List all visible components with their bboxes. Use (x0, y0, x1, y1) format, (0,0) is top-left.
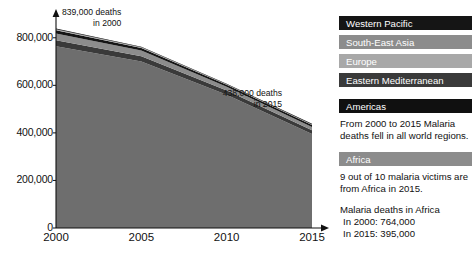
note-all-regions: From 2000 to 2015 Malaria deaths fell in… (340, 118, 475, 142)
annotation-2000-line2: in 2000 (62, 18, 121, 29)
note-africa-share: 9 out of 10 malaria victims are from Afr… (340, 171, 475, 195)
annotation-2015-line2: in 2015 (214, 99, 282, 110)
legend-label-africa: Africa (339, 154, 371, 165)
legend-item-western-pacific[interactable]: Western Pacific (339, 16, 472, 30)
x-tick-label-2010: 2010 (214, 231, 240, 243)
chart-area: 0200,000400,000600,000800,000 2000200520… (0, 0, 336, 264)
annotation-2015: 438,000 deaths in 2015 (214, 88, 282, 109)
legend-label-europe: Europe (339, 56, 377, 67)
legend-item-south-east-asia[interactable]: South-East Asia (339, 35, 472, 49)
africa-deaths-2000: In 2000: 764,000 (343, 216, 475, 228)
legend-label-western-pacific: Western Pacific (339, 18, 412, 29)
y-axis-ticks: 0200,000400,000600,000800,000 (0, 0, 53, 264)
legend-label-americas: Americas (339, 101, 386, 112)
africa-deaths-2015: In 2015: 395,000 (343, 228, 475, 240)
annotation-2000-line1: 839,000 deaths (62, 7, 121, 18)
x-tick-label-2000: 2000 (43, 231, 69, 243)
x-tick-label-2005: 2005 (129, 231, 155, 243)
legend-label-eastern-mediterranean: Eastern Mediterranean (339, 75, 444, 86)
annotation-2000: 839,000 deaths in 2000 (62, 7, 121, 28)
legend-item-europe[interactable]: Europe (339, 54, 472, 68)
x-tick-label-2015: 2015 (299, 231, 325, 243)
legend-label-south-east-asia: South-East Asia (339, 37, 414, 48)
y-tick-label-800000: 800,000 (1, 31, 53, 43)
legend-item-americas[interactable]: Americas (339, 99, 472, 113)
legend-item-africa[interactable]: Africa (339, 152, 472, 166)
y-tick-label-400000: 400,000 (1, 126, 53, 138)
legend-and-notes-panel: Western Pacific South-East Asia Europe E… (336, 0, 475, 264)
y-tick-label-600000: 600,000 (1, 78, 53, 90)
x-axis-ticks: 2000200520102015 (0, 231, 336, 251)
y-tick-label-200000: 200,000 (1, 173, 53, 185)
legend-item-eastern-mediterranean[interactable]: Eastern Mediterranean (339, 73, 472, 87)
series-layer (56, 29, 312, 228)
africa-deaths-heading: Malaria deaths in Africa (340, 204, 475, 216)
annotation-2015-line1: 438,000 deaths (214, 88, 282, 99)
